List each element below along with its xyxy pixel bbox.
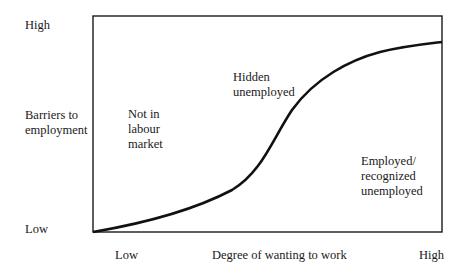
region-label-not-in-labour-market: Not in labour market: [128, 107, 163, 152]
x-axis-low-label: Low: [115, 248, 138, 263]
y-axis-title: Barriers to employment: [25, 108, 88, 138]
y-axis-low-label: Low: [25, 222, 48, 237]
x-axis-high-label: High: [419, 248, 444, 263]
y-axis-high-label: High: [25, 18, 50, 33]
region-label-employed-recognized-unemployed: Employed/ recognized unemployed: [361, 154, 423, 199]
region-label-hidden-unemployed: Hidden unemployed: [233, 70, 295, 100]
x-axis-title: Degree of wanting to work: [212, 248, 347, 263]
